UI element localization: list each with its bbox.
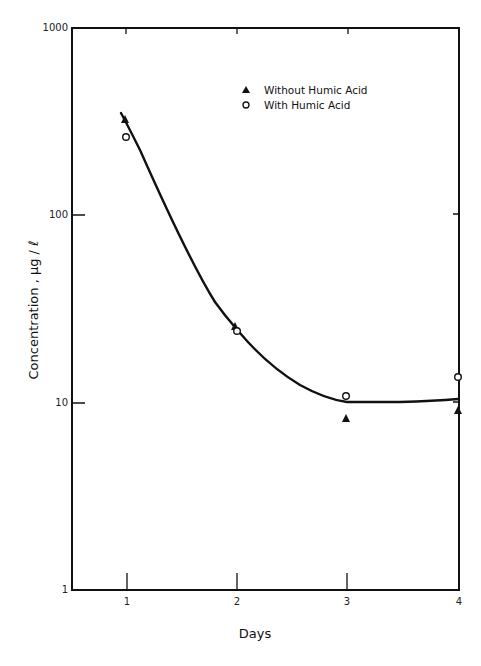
x-tick-3: 3 (344, 596, 350, 607)
x-tick-2: 2 (234, 596, 240, 607)
x-axis-title: Days (239, 626, 272, 641)
circle-marker (455, 374, 462, 381)
y-tick-10: 10 (55, 397, 68, 408)
x-tick-1: 1 (124, 596, 130, 607)
series-without-humic-acid (121, 115, 462, 422)
triangle-marker (454, 406, 462, 414)
circle-marker (123, 134, 130, 141)
legend-label-with: With Humic Acid (264, 99, 350, 111)
plot-frame (72, 28, 459, 590)
x-tick-4: 4 (456, 596, 462, 607)
legend-circle-icon (243, 102, 249, 108)
x-axis-ticks: 1 2 3 4 (124, 28, 462, 607)
fit-curve (121, 113, 458, 402)
legend-triangle-icon (242, 86, 250, 93)
series-with-humic-acid (123, 134, 462, 400)
legend-label-without: Without Humic Acid (264, 84, 368, 96)
legend: Without Humic Acid With Humic Acid (242, 84, 368, 111)
y-tick-100: 100 (49, 209, 68, 220)
triangle-marker (342, 414, 350, 422)
concentration-chart: 1000 100 10 1 1 2 3 4 Days Concentration… (0, 0, 481, 666)
y-axis-ticks: 1000 100 10 1 (43, 22, 459, 595)
y-tick-1000: 1000 (43, 22, 68, 33)
y-tick-1: 1 (62, 584, 68, 595)
circle-marker (343, 393, 350, 400)
circle-marker (234, 328, 241, 335)
y-axis-title: Concentration , μg / ℓ (26, 241, 41, 380)
